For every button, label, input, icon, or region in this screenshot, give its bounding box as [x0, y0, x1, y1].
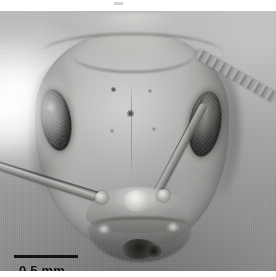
- frontal-setal-pit: [110, 129, 114, 133]
- frontal-setal-pit: [127, 110, 134, 117]
- scanner-speck-icon: [114, 2, 123, 5]
- scale-bar-label: 0.5 mm: [19, 263, 65, 271]
- labral-highlight-left: [97, 225, 111, 233]
- labral-highlight-right: [166, 223, 180, 231]
- scale-bar-line: [14, 255, 78, 258]
- frontal-median-line: [131, 83, 132, 179]
- antennal-condyle-left: [95, 191, 108, 204]
- vertex-concavity: [72, 37, 194, 73]
- clypeal-median-lobe: [124, 190, 150, 212]
- scale-bar: 0.5 mm: [14, 245, 104, 271]
- mandible-apical-tooth: [146, 245, 162, 257]
- antennal-condyle-right: [157, 189, 170, 202]
- micrograph-image: 0.5 mm: [0, 11, 276, 271]
- figure-root: 0.5 mm: [0, 0, 276, 277]
- frontal-setal-pit: [152, 127, 156, 131]
- frontal-setal-pit: [111, 87, 116, 92]
- frontal-setal-pit: [148, 89, 152, 93]
